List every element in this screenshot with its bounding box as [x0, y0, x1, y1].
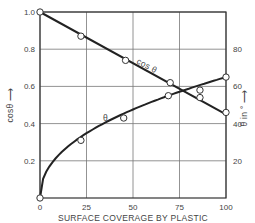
cos-data-point [223, 109, 229, 115]
y-left-tick-label: 1.0 [24, 8, 36, 17]
y-right-tick-label: 80 [233, 45, 242, 54]
x-tick-label: 75 [175, 203, 184, 212]
theta-data-point [78, 137, 84, 143]
cos-data-point [37, 9, 43, 15]
x-tick-label: 25 [82, 203, 91, 212]
y-left-tick-label: 0.6 [24, 82, 36, 91]
cos-data-point [167, 79, 173, 85]
x-tick-label: 0 [38, 203, 43, 212]
cos-data-point [122, 57, 128, 63]
theta-series-label: θ [103, 113, 108, 123]
y-left-tick-label: 0.8 [24, 45, 36, 54]
y-left-tick-label: 0.2 [24, 157, 36, 166]
y-left-tick-label: 0.4 [24, 120, 36, 129]
theta-data-point [121, 115, 127, 121]
x-axis-label: SURFACE COVERAGE BY PLASTIC [58, 213, 208, 223]
chart: 02550751000.20.40.60.81.020406080SURFACE… [0, 0, 255, 223]
y-left-axis-label: cosθ ⟶ [5, 87, 15, 122]
theta-data-point [197, 87, 203, 93]
theta-data-point [223, 74, 229, 80]
theta-data-point [165, 93, 171, 99]
cos-data-point [78, 33, 84, 39]
y-right-axis-label: θ in ° ⟶ [239, 89, 249, 126]
y-right-tick-label: 20 [233, 157, 242, 166]
cos-series-label: cos θ [135, 56, 159, 75]
x-tick-label: 50 [129, 203, 138, 212]
cos-data-point [197, 94, 203, 100]
theta-data-point [37, 195, 43, 201]
x-tick-label: 100 [219, 203, 233, 212]
